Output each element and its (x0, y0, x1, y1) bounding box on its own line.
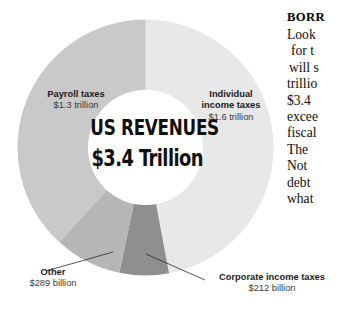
article-line: trillio (287, 76, 340, 92)
donut-chart-svg (17, 19, 274, 276)
article-column: BORR Lookfor twill strillio$3.4exceefisc… (287, 10, 340, 207)
revenue-donut-figure: US REVENUES $3.4 Trillion Payroll taxes … (0, 0, 340, 310)
slice-label-corporate-income-taxes: Corporate income taxes $212 billion (204, 272, 340, 295)
donut-chart (17, 19, 274, 276)
article-line: Look (287, 27, 340, 43)
slice-label-corporate-name: Corporate income taxes (204, 272, 340, 283)
slice-label-individual-name-line2: income taxes (188, 100, 274, 111)
article-line: The (287, 142, 340, 158)
article-line: fiscal (287, 125, 340, 141)
slice-label-individual-income-taxes: Individual income taxes $1.6 trillion (188, 89, 274, 123)
slice-label-other-name: Other (10, 267, 96, 278)
slice-label-other: Other $289 billion (10, 267, 96, 290)
article-line: for t (287, 43, 340, 59)
article-line: $3.4 (287, 93, 340, 109)
article-body: Lookfor twill strillio$3.4exceefiscalThe… (287, 27, 340, 207)
article-heading: BORR (287, 10, 340, 25)
slice-label-payroll-value: $1.3 trillion (28, 100, 124, 111)
slice-label-payroll-taxes: Payroll taxes $1.3 trillion (28, 89, 124, 112)
article-line: what (287, 191, 340, 207)
slice-label-individual-name-line1: Individual (188, 89, 274, 100)
article-line: debt (287, 175, 340, 191)
article-line: excee (287, 109, 340, 125)
slice-label-corporate-value: $212 billion (204, 283, 340, 294)
article-line: will s (287, 60, 340, 76)
slice-label-other-value: $289 billion (10, 278, 96, 289)
slice-label-payroll-name: Payroll taxes (28, 89, 124, 100)
article-line: Not (287, 158, 340, 174)
slice-label-individual-value: $1.6 trillion (188, 112, 274, 123)
